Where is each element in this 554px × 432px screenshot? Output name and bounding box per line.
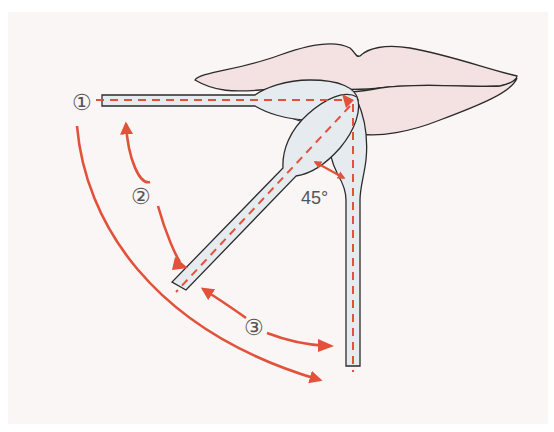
swab-rotation-diagram: ① ② ③ 45° <box>0 0 554 432</box>
angle-label: 45° <box>301 188 328 208</box>
swab-position-2 <box>172 94 359 290</box>
label-position-3: ③ <box>244 315 264 340</box>
label-position-1: ① <box>72 90 92 115</box>
diagram-canvas: ① ② ③ 45° <box>0 0 554 432</box>
label-position-2: ② <box>131 184 151 209</box>
arrowhead-position-2-end <box>172 257 188 270</box>
arrowhead-position-3-end <box>318 339 334 352</box>
upper-lip <box>195 44 517 91</box>
position-labels: ① ② ③ 45° <box>72 90 328 340</box>
